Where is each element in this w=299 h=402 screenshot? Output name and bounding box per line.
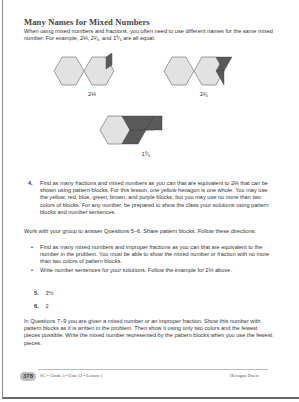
group-instructions: Work with your group to answer Questions… xyxy=(24,228,274,235)
footer-lesson-title: Hexagon Duets xyxy=(230,373,258,378)
figure-label-2: 2²⁄₆ xyxy=(194,91,214,97)
figure-two-and-one-third xyxy=(50,53,120,89)
question-number: 5. xyxy=(34,290,44,296)
question-text: Find as many fractions and mixed numbers… xyxy=(40,180,269,215)
questions-7-9-instructions: In Questions 7–9 you are given a mixed n… xyxy=(24,318,274,347)
figure-label-3: 1⁸⁄₆ xyxy=(136,151,156,157)
footer-course-info: SG • Grade 5 • Unit 12 • Lesson 1 xyxy=(40,373,103,378)
directions-list: •Find as many mixed numbers and improper… xyxy=(40,244,272,275)
question-text: 3½ xyxy=(46,290,54,296)
page-title: Many Names for Mixed Numbers xyxy=(24,17,150,27)
question-4: 4. Find as many fractions and mixed numb… xyxy=(40,180,270,216)
list-item: •Find as many mixed numbers and improper… xyxy=(40,244,272,266)
question-5: 5. 3½ xyxy=(34,290,53,296)
figure-two-and-two-sixths xyxy=(160,53,232,89)
figure-one-and-eight-sixths xyxy=(96,112,166,148)
question-6: 6. 2 xyxy=(34,303,49,309)
page-number-badge: 378 xyxy=(20,372,36,381)
footer-divider xyxy=(38,369,268,370)
bullet-text: Find as many mixed numbers and improper … xyxy=(40,244,269,264)
hexagon-shape xyxy=(54,57,84,85)
intro-text: When using mixed numbers and fractions, … xyxy=(24,28,274,42)
hexagon-shape xyxy=(164,57,194,85)
question-number: 6. xyxy=(34,303,44,309)
question-text: 2 xyxy=(46,303,49,309)
list-item: •Write number sentences for your solutio… xyxy=(40,267,272,274)
question-number: 4. xyxy=(28,180,33,187)
figure-label-1: 2⅓ xyxy=(82,91,102,97)
bullet-text: Write number sentences for your solution… xyxy=(40,267,232,273)
